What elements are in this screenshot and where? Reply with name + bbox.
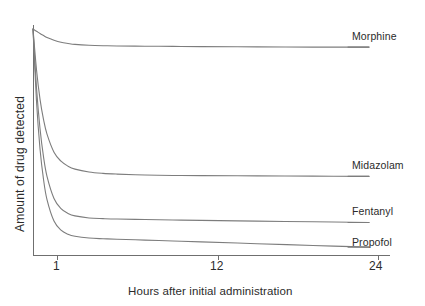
x-tick-label-12: 12 xyxy=(210,260,224,272)
series-curve-morphine xyxy=(33,29,369,47)
series-label-propofol: Propofol xyxy=(352,237,392,248)
series-curve-fentanyl xyxy=(33,29,369,222)
series-label-fentanyl: Fentanyl xyxy=(352,206,393,217)
x-axis-title: Hours after initial administration xyxy=(128,286,292,298)
series-label-midazolam: Midazolam xyxy=(352,160,404,171)
series-label-morphine: Morphine xyxy=(352,31,397,42)
series-curve-midazolam xyxy=(33,29,369,176)
chart-page: Morphine Midazolam Fentanyl Propofol 1 1… xyxy=(0,0,425,306)
series-curves-group xyxy=(33,29,369,247)
series-curve-propofol xyxy=(33,29,369,247)
x-tick-label-24: 24 xyxy=(369,260,383,272)
x-tick-label-1: 1 xyxy=(53,260,60,272)
y-axis-title: Amount of drug detected xyxy=(14,96,26,232)
